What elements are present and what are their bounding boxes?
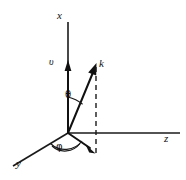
phi-angle-label: φ [56, 142, 63, 152]
k-projection-arrowhead-icon [86, 145, 96, 154]
v-vector-label: υ [49, 57, 54, 67]
x-axis-label: x [57, 10, 62, 21]
diagram-canvas [0, 0, 186, 180]
coordinate-diagram-figure: x υ k z y θ φ [0, 0, 186, 180]
k-arrowhead-icon [88, 63, 96, 76]
y-axis-label: y [16, 158, 21, 169]
z-axis-label: z [164, 133, 168, 144]
theta-angle-label: θ [65, 90, 71, 100]
k-vector-label: k [99, 58, 104, 69]
k-vector-line [68, 70, 94, 133]
